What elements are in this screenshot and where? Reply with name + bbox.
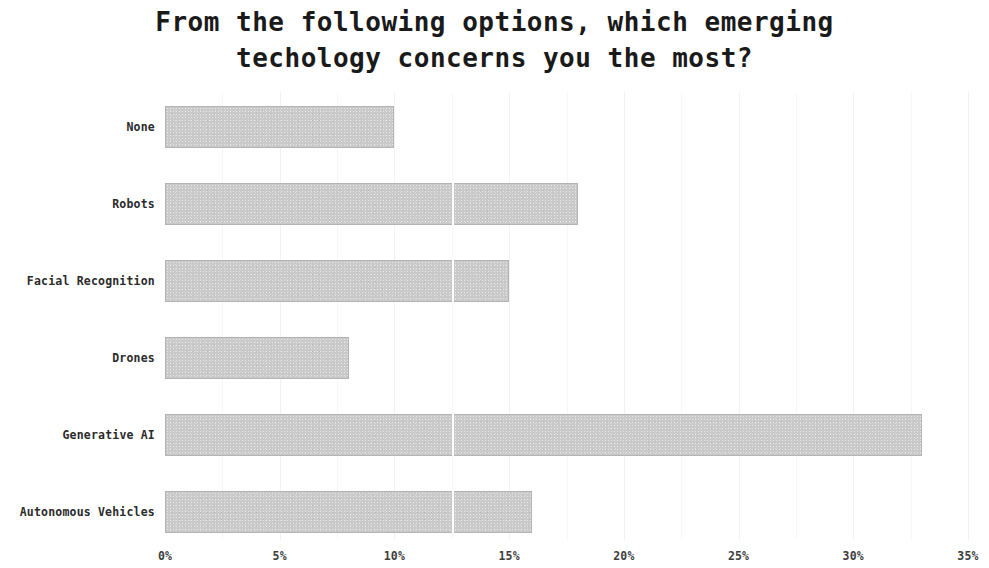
y-axis-label-generative-ai: Generative AI	[0, 428, 155, 442]
gridline	[968, 92, 969, 540]
bar-row	[165, 337, 968, 379]
x-axis-tick-10pct: 10%	[364, 548, 424, 564]
y-axis-label-autonomous-vehicles: Autonomous Vehicles	[0, 505, 155, 519]
x-axis-tick-20pct: 20%	[594, 548, 654, 564]
x-axis-tick-labels: 0%5%10%15%20%25%30%35%	[0, 548, 989, 568]
bar-robots	[165, 183, 578, 225]
x-axis-tick-30pct: 30%	[823, 548, 883, 564]
bar-facial-recognition	[165, 260, 509, 302]
bar-row	[165, 106, 968, 148]
y-axis-label-facial-recognition: Facial Recognition	[0, 274, 155, 288]
bar-row	[165, 183, 968, 225]
bar-row	[165, 414, 968, 456]
bar-autonomous-vehicles	[165, 491, 532, 533]
x-axis-tick-15pct: 15%	[479, 548, 539, 564]
bar-gridline	[452, 183, 454, 225]
y-axis-category-labels: NoneRobotsFacial RecognitionDronesGenera…	[0, 92, 155, 540]
x-axis-tick-35pct: 35%	[938, 548, 989, 564]
chart-title: From the following options, which emergi…	[0, 4, 989, 76]
bar-gridline	[452, 491, 454, 533]
plot-area	[165, 92, 968, 540]
bar-chart-figure: From the following options, which emergi…	[0, 0, 989, 568]
x-axis-tick-25pct: 25%	[709, 548, 769, 564]
y-axis-label-robots: Robots	[0, 197, 155, 211]
y-axis-label-none: None	[0, 120, 155, 134]
bar-none	[165, 106, 394, 148]
bar-series	[165, 92, 968, 540]
x-axis-tick-5pct: 5%	[250, 548, 310, 564]
bar-gridline	[452, 414, 454, 456]
bar-row	[165, 260, 968, 302]
bar-drones	[165, 337, 349, 379]
x-axis-tick-0pct: 0%	[135, 548, 195, 564]
bar-row	[165, 491, 968, 533]
bar-generative-ai	[165, 414, 922, 456]
y-axis-label-drones: Drones	[0, 351, 155, 365]
bar-gridline	[452, 260, 454, 302]
